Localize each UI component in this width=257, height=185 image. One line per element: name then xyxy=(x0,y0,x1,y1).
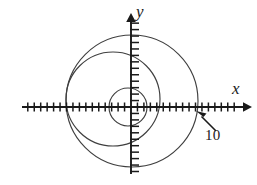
plot-canvas xyxy=(0,0,257,185)
x-axis-arrowhead xyxy=(243,102,252,112)
y-axis-label: y xyxy=(136,3,144,20)
x-axis-label: x xyxy=(232,80,240,97)
radius-callout-label: 10 xyxy=(205,128,220,143)
polar-plot-figure: y x 10 xyxy=(0,0,257,185)
callout-arrowhead xyxy=(196,111,207,117)
y-axis-arrowhead xyxy=(126,13,136,22)
circle-medium-curve xyxy=(66,52,160,146)
